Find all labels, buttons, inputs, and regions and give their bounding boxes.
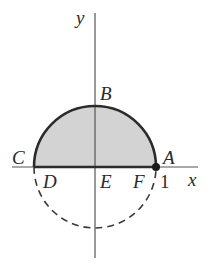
point-e-label: E (100, 172, 112, 191)
diagram-canvas (0, 0, 215, 270)
diagram: y x B C A D E F 1 (0, 0, 215, 270)
x-axis-label: x (188, 170, 196, 189)
point-a-dot (152, 163, 160, 171)
point-f-label: F (133, 172, 145, 191)
point-c-label: C (12, 148, 25, 167)
point-a-label: A (163, 148, 175, 167)
point-b-label: B (100, 84, 112, 103)
point-d-label: D (43, 172, 57, 191)
y-axis-label: y (76, 8, 84, 27)
tick-label-one: 1 (160, 172, 170, 191)
